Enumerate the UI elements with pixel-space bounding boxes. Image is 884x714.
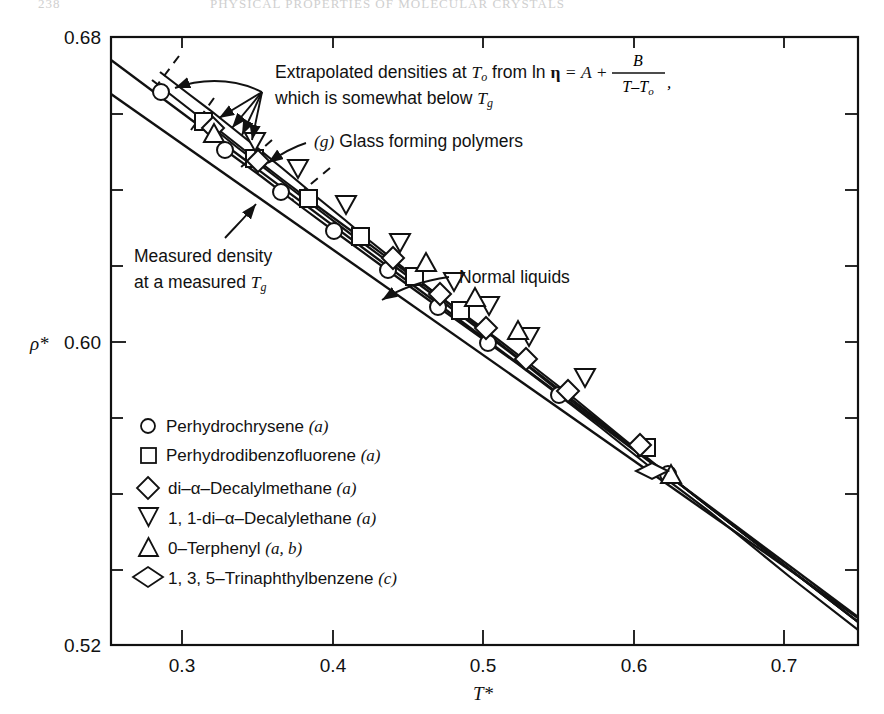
y-axis-ticks <box>111 37 126 645</box>
annot-extrap-text-a: Extrapolated densities at <box>275 62 472 82</box>
svg-text:Perhydrochrysene (a): Perhydrochrysene (a) <box>166 417 329 436</box>
fraction-denominator: T–To <box>622 78 654 97</box>
svg-text:which is somewhat below Tg: which is somewhat below Tg <box>274 88 493 110</box>
legend-note-2: (a) <box>337 479 357 498</box>
legend-square-icon <box>141 448 156 463</box>
legend-item-trinaphthylbenzene: 1, 3, 5–Trinaphthylbenzene (c) <box>133 567 397 588</box>
legend-wide-diamond-icon <box>133 567 163 587</box>
svg-text:1, 3, 5–Trinaphthylbenzene (c): 1, 3, 5–Trinaphthylbenzene (c) <box>168 569 397 588</box>
annotation-measured-density: Measured density at a measured Tg <box>134 246 272 294</box>
fraction-numerator: B <box>633 52 643 69</box>
legend-label-0: Perhydrochrysene <box>166 417 309 436</box>
annotation-glass-forming-polymers: (g) Glass forming polymers <box>314 131 523 151</box>
page-folio: 238 <box>38 0 61 12</box>
y-tick-label-1: 0.60 <box>64 332 101 353</box>
fraction-trailing-comma: , <box>667 73 671 92</box>
legend-label-5: 1, 3, 5–Trinaphthylbenzene <box>168 569 378 588</box>
annot-measured-line2: at a measured Tg <box>134 272 266 294</box>
x-axis-title: T* <box>473 683 494 704</box>
annotation-normal-liquids: Normal liquids <box>459 267 570 287</box>
legend-note-5: (c) <box>378 569 397 588</box>
running-title: Physical Properties of Molecular Crystal… <box>210 0 565 12</box>
svg-text:0–Terphenyl (a, b): 0–Terphenyl (a, b) <box>168 539 303 558</box>
figure-container: 238 Physical Properties of Molecular Cry… <box>0 0 884 714</box>
x-tick-label-1: 0.4 <box>320 655 347 676</box>
x-tick-label-3: 0.6 <box>621 655 647 676</box>
annot-glass-tag: (g) <box>314 131 335 151</box>
legend-up-triangle-icon <box>139 538 158 556</box>
legend-note-0: (a) <box>309 417 329 436</box>
annotation-extrapolated-densities: Extrapolated densities at To from ln η =… <box>274 52 671 110</box>
legend-note-3: (a) <box>356 509 376 528</box>
svg-text:Perhydrodibenzofluorene (a): Perhydrodibenzofluorene (a) <box>166 446 381 465</box>
svg-text:Extrapolated densities at To f: Extrapolated densities at To from ln η =… <box>275 62 608 84</box>
series-line-circle <box>225 150 858 630</box>
legend-item-terphenyl: 0–Terphenyl (a, b) <box>139 538 303 558</box>
annot-extrap-text-b: from ln <box>487 62 550 82</box>
y-axis-title: ρ* <box>29 333 49 354</box>
x-tick-label-0: 0.3 <box>169 655 195 676</box>
chart-svg: 0.68 0.60 0.52 ρ* 0.3 0.4 0.5 0.6 0.7 T* <box>0 0 884 714</box>
annot-extrap-eta: η <box>550 62 560 82</box>
leader-arrow-measured-density <box>225 204 256 238</box>
page-running-header: 238 Physical Properties of Molecular Cry… <box>0 0 884 12</box>
legend-down-triangle-icon <box>139 508 158 526</box>
legend-item-di-alpha-decalylmethane: di–α–Decalylmethane (a) <box>137 477 357 499</box>
legend-label-2: di–α–Decalylmethane <box>168 479 337 498</box>
y-tick-label-0: 0.68 <box>64 27 101 48</box>
x-tick-label-2: 0.5 <box>470 655 496 676</box>
annot-measured-line2-a: at a measured <box>134 272 251 292</box>
annot-glass-text: Glass forming polymers <box>334 131 523 151</box>
x-tick-label-4: 0.7 <box>771 655 797 676</box>
annot-measured-sub: g <box>260 280 266 294</box>
legend-label-4: 0–Terphenyl <box>168 539 265 558</box>
legend: Perhydrochrysene (a) Perhydrodibenzofluo… <box>133 417 397 588</box>
y-tick-label-2: 0.52 <box>64 635 101 656</box>
annot-extrap-Tg-sub: g <box>487 96 493 110</box>
markers-down-triangle <box>245 133 595 387</box>
legend-item-perhydrochrysene: Perhydrochrysene (a) <box>141 417 329 436</box>
legend-label-2-group: di–α–Decalylmethane (a) <box>168 479 357 498</box>
annot-extrap-eq: = A + <box>560 62 607 82</box>
legend-diamond-icon <box>137 477 159 499</box>
legend-circle-icon <box>141 419 155 433</box>
legend-item-decalylethane: 1, 1-di–α–Decalylethane (a) <box>139 508 377 528</box>
legend-note-1: (a) <box>361 446 381 465</box>
legend-note-4: (a, b) <box>265 539 302 558</box>
svg-text:1, 1-di–α–Decalylethane (a): 1, 1-di–α–Decalylethane (a) <box>168 509 377 528</box>
annot-measured-line1: Measured density <box>134 246 272 266</box>
annot-extrap-line2-a: which is somewhat below <box>274 88 477 108</box>
legend-label-3: 1, 1-di–α–Decalylethane <box>168 509 356 528</box>
legend-item-perhydrodibenzofluorene: Perhydrodibenzofluorene (a) <box>141 446 381 465</box>
legend-label-1: Perhydrodibenzofluorene <box>166 446 361 465</box>
fraction-denom-sub: o <box>648 85 654 97</box>
annotation-fraction: B T–To , <box>612 52 671 97</box>
